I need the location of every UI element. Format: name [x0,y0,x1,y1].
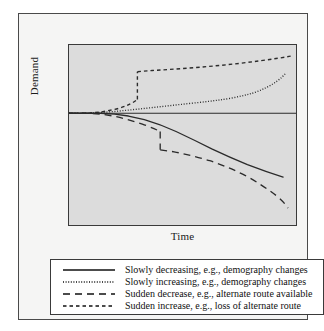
y-axis-label: Demand [28,33,40,119]
legend-item-label: Slowly increasing, e.g., demography chan… [125,276,306,288]
plot-area [68,44,297,226]
legend-item-label: Sudden increase, e.g., loss of alternate… [125,300,301,312]
legend-item-label: Sudden decrease, e.g., alternate route a… [125,288,312,300]
series-slowly-decreasing [69,113,283,177]
legend-item: Sudden increase, e.g., loss of alternate… [51,300,323,312]
series-slowly-increasing [69,73,286,114]
legend-item: Slowly increasing, e.g., demography chan… [51,276,323,288]
figure-outer-frame: Demand Time Slowly decreasing, e.g., dem… [18,13,308,320]
legend: Slowly decreasing, e.g., demography chan… [50,259,324,315]
series-sudden-increase [69,99,137,113]
long-dashed-line-icon [61,288,117,300]
series-sudden-decrease-tail [160,150,288,208]
solid-line-icon [61,264,117,276]
series-sudden-decrease [69,113,160,131]
figure-canvas: Demand Time Slowly decreasing, e.g., dem… [0,0,324,331]
plot-svg [69,45,296,225]
legend-item: Sudden decrease, e.g., alternate route a… [51,288,323,300]
legend-item: Slowly decreasing, e.g., demography chan… [51,264,323,276]
legend-item-label: Slowly decreasing, e.g., demography chan… [125,264,308,276]
series-sudden-increase-tail [137,56,291,72]
short-dashed-line-icon [61,300,117,312]
dotted-line-icon [61,276,117,288]
x-axis-label: Time [68,230,297,242]
